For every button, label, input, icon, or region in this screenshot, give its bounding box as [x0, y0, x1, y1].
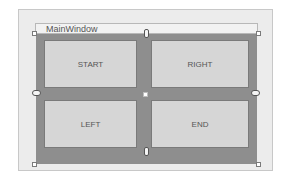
resize-handle-bottom-right[interactable]	[256, 162, 261, 167]
panel-start-label: START	[78, 60, 103, 69]
anchor-top-icon[interactable]	[144, 29, 149, 38]
anchor-right-icon[interactable]	[251, 90, 260, 96]
center-splitter-handle[interactable]	[143, 92, 148, 97]
panel-left-label: LEFT	[81, 120, 101, 129]
anchor-bottom-icon[interactable]	[144, 147, 149, 156]
resize-handle-top-left[interactable]	[32, 31, 37, 36]
panel-left[interactable]: LEFT	[44, 100, 137, 148]
resize-handle-top-right[interactable]	[256, 31, 261, 36]
resize-handle-bottom-left[interactable]	[32, 162, 37, 167]
layout-grid[interactable]: START RIGHT LEFT END	[36, 34, 257, 164]
panel-start[interactable]: START	[44, 40, 137, 88]
panel-end-label: END	[192, 120, 209, 129]
panel-right[interactable]: RIGHT	[151, 40, 249, 88]
anchor-left-icon[interactable]	[32, 90, 41, 96]
panel-right-label: RIGHT	[188, 60, 213, 69]
panel-end[interactable]: END	[151, 100, 249, 148]
